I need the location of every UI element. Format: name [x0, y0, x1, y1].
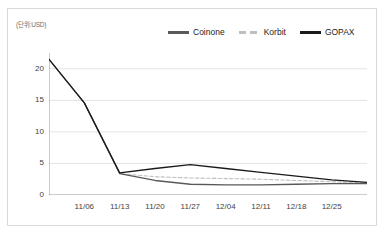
chart-legend: Coinone Korbit GOPAX	[168, 25, 373, 39]
y-tick-label: 20	[35, 65, 44, 73]
legend-item-korbit: Korbit	[239, 28, 286, 37]
chart-plot-svg	[49, 53, 367, 195]
series-line-gopax	[49, 59, 367, 182]
x-tick-label: 11/13	[110, 203, 129, 211]
y-tick-label: 0	[40, 191, 44, 199]
x-axis-labels: 11/0611/1311/2011/2712/0412/1112/1812/25	[49, 201, 367, 215]
plot-area	[49, 53, 367, 195]
unit-label: (단위:USD)	[16, 19, 46, 29]
legend-item-gopax: GOPAX	[300, 28, 355, 37]
legend-swatch-korbit	[239, 31, 260, 34]
x-tick-label: 11/27	[181, 203, 200, 211]
x-tick-label: 12/04	[216, 203, 236, 211]
x-tick-label: 12/18	[286, 203, 306, 211]
series-line-korbit	[49, 59, 367, 183]
x-tick-label: 12/11	[251, 203, 270, 211]
legend-label-gopax: GOPAX	[325, 28, 355, 37]
legend-label-korbit: Korbit	[264, 28, 286, 37]
chart-container: (단위:USD) Coinone Korbit GOPAX 05101520 1…	[7, 8, 377, 226]
legend-label-coinone: Coinone	[193, 28, 225, 37]
x-tick-label: 11/20	[145, 203, 164, 211]
y-tick-label: 5	[40, 159, 44, 167]
y-tick-label: 15	[35, 96, 44, 104]
legend-swatch-gopax	[300, 31, 321, 34]
x-tick-label: 11/06	[75, 203, 94, 211]
x-tick-label: 12/25	[322, 203, 342, 211]
y-tick-label: 10	[35, 128, 44, 136]
legend-swatch-coinone	[168, 31, 189, 34]
y-axis-labels: 05101520	[22, 53, 44, 195]
legend-item-coinone: Coinone	[168, 28, 225, 37]
